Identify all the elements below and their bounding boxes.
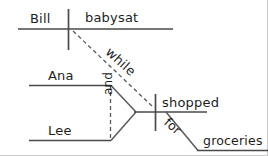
label-verb-babysat: babysat [85, 11, 138, 24]
label-subject-lee: Lee [48, 124, 72, 137]
label-verb-shopped: shopped [162, 96, 219, 109]
label-object-groceries: groceries [203, 135, 263, 148]
label-subject-ana: Ana [48, 69, 74, 82]
label-conjunction-and: and [102, 72, 114, 95]
sentence-diagram: Bill babysat while Ana Lee and shopped f… [0, 0, 268, 156]
label-subject-bill: Bill [30, 12, 51, 25]
lee-converging-diagonal [111, 112, 136, 141]
